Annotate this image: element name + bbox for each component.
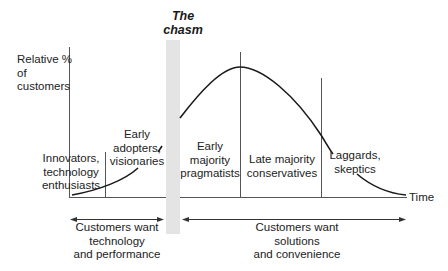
segment-late-majority-label: Late majority conservatives (242, 153, 322, 180)
segment-early-adopters-label: Early adopters, visionaries (104, 128, 170, 169)
segment-innovators-label: Innovators, technology enthusiasts (38, 152, 104, 193)
segment-laggards-label: Laggards, skeptics (324, 149, 386, 176)
segment-early-majority-label: Early majority pragmatists (178, 140, 242, 181)
chasm-title: The chasm (150, 9, 216, 37)
chasm-title-line-2: chasm (150, 23, 216, 37)
technology-adoption-lifecycle-diagram: The chasm Relative % of customers Time I… (0, 0, 448, 271)
x-axis-label: Time (409, 191, 434, 205)
range-solutions-convenience-label: Customers want solutions and convenience (246, 221, 348, 262)
adoption-curve-tail (357, 174, 406, 195)
y-axis-label: Relative % of customers (17, 53, 72, 94)
range-technology-performance-label: Customers want technology and performanc… (67, 221, 167, 262)
chasm-title-line-1: The (150, 9, 216, 23)
